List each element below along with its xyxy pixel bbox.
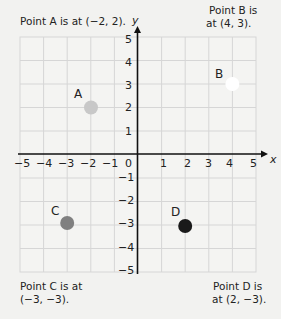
y-tick: −1 xyxy=(118,172,134,183)
x-tick: 4 xyxy=(226,158,233,169)
note-point-a: Point A is at (−2, 2). xyxy=(20,15,126,28)
point-c-marker xyxy=(60,216,74,230)
note-point-d-line1: Point D is xyxy=(213,280,262,293)
note-point-c-line1: Point C is at xyxy=(20,280,82,293)
y-axis-arrow-icon xyxy=(134,26,141,33)
y-axis-label: y xyxy=(132,15,139,26)
x-axis-label: x xyxy=(270,154,277,165)
y-tick: −4 xyxy=(118,242,134,253)
x-tick: 1 xyxy=(160,158,167,169)
x-tick: 5 xyxy=(250,158,257,169)
point-d-label: D xyxy=(171,206,180,218)
x-tick: 3 xyxy=(205,158,212,169)
x-tick: −5 xyxy=(14,158,30,169)
point-d-marker xyxy=(178,219,192,233)
y-tick: 5 xyxy=(125,34,132,45)
point-a-marker xyxy=(84,101,98,115)
note-point-b-line1: Point B is xyxy=(209,4,257,17)
x-tick: 0 xyxy=(125,158,132,169)
note-point-d-line2: at (2, −3). xyxy=(212,293,266,306)
x-tick: −2 xyxy=(80,158,96,169)
note-point-b-line2: at (4, 3). xyxy=(206,17,251,30)
y-tick: 4 xyxy=(125,57,132,68)
y-tick: 2 xyxy=(125,102,132,113)
point-c-label: C xyxy=(51,205,59,217)
point-b-label: B xyxy=(215,68,223,80)
y-tick: −3 xyxy=(118,218,134,229)
x-tick: 2 xyxy=(184,158,191,169)
y-tick: 3 xyxy=(125,80,132,91)
note-point-c-line2: (−3, −3). xyxy=(20,293,69,306)
x-axis-arrow-icon xyxy=(261,151,268,158)
y-tick: 1 xyxy=(125,126,132,137)
x-tick: −3 xyxy=(58,158,74,169)
x-tick: −4 xyxy=(36,158,52,169)
point-b-marker xyxy=(225,77,239,91)
y-tick: −2 xyxy=(118,195,134,206)
x-tick: −1 xyxy=(102,158,118,169)
y-tick: −5 xyxy=(118,265,134,276)
point-a-label: A xyxy=(74,88,82,100)
